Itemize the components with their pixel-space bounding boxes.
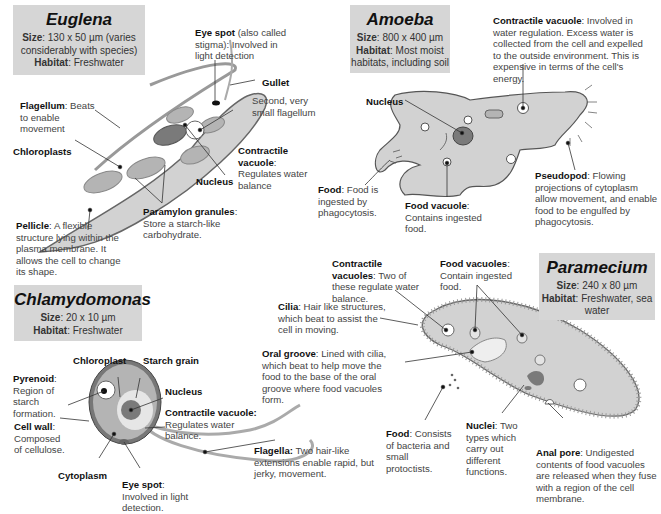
paramecium-habitat: Habitat: Freshwater, sea water — [539, 293, 655, 318]
amoeba-title: Amoeba — [350, 10, 450, 29]
paramecium-oral-groove-label: Oral groove: Lined with cilia, which bea… — [262, 348, 402, 406]
paramecium-food-vacuoles-label: Food vacuoles: Contain ingested food. — [440, 258, 535, 293]
paramecium-anal-pore-label: Anal pore: Undigested contents of food v… — [536, 447, 661, 505]
euglena-nucleus-label: Nucleus — [196, 176, 233, 188]
amoeba-food-vacuole-label: Food vacuole: Contains ingested food. — [405, 200, 485, 235]
amoeba-contractile-vacuole-label: Contractile vacuole: Involved in water r… — [493, 15, 645, 84]
euglena-title: Euglena — [13, 10, 145, 29]
paramecium-size: Size: 240 x 80 µm — [539, 280, 655, 293]
chlamydomonas-nucleus-label: Nucleus — [165, 386, 202, 398]
euglena-flagellum-label: Flagellum: Beats to enable movement — [20, 100, 102, 135]
chlamydomonas-flagella-label: Flagella: Two hair-like extensions enabl… — [254, 445, 374, 480]
chlamydomonas-cytoplasm-label: Cytoplasm — [58, 470, 107, 482]
paramecium-food-label: Food: Consists of bacteria and small pro… — [386, 428, 452, 474]
euglena-size: Size: 130 x 50 µm (varies considerably w… — [13, 32, 145, 57]
euglena-info-box: Euglena Size: 130 x 50 µm (varies consid… — [13, 5, 145, 75]
chlamydomonas-starch-grain-label: Starch grain — [143, 355, 199, 367]
amoeba-size: Size: 800 x 400 µm — [350, 32, 450, 45]
euglena-gullet-label: Gullet — [262, 77, 289, 89]
amoeba-food-label: Food: Food is ingested by phagocytosis. — [318, 184, 394, 219]
euglena-eye-spot-label: Eye spot (also called stigma): Involved … — [195, 27, 290, 62]
chlamydomonas-contractile-vacuole-label: Contractile vacuole: Regulates water bal… — [165, 407, 260, 442]
chlamydomonas-eye-spot-label: Eye spot: Involved in light detection. — [122, 479, 202, 514]
chlamydomonas-title: Chlamydomonas — [14, 290, 142, 309]
paramecium-nuclei-label: Nuclei: Two types which carry out differ… — [466, 420, 536, 478]
chlamydomonas-habitat: Habitat: Freshwater — [14, 325, 142, 338]
euglena-paramylon-label: Paramylon granules: Store a starch-like … — [143, 206, 238, 241]
amoeba-nucleus-label: Nucleus — [366, 96, 403, 108]
amoeba-pseudopod-label: Pseudopod: Flowing projections of cytopl… — [535, 170, 660, 228]
paramecium-cilia-label: Cilia: Hair like structures, which beat … — [278, 301, 390, 336]
euglena-habitat: Habitat: Freshwater — [13, 57, 145, 70]
chlamydomonas-cell-wall-label: Cell wall: Composed of cellulose. — [14, 421, 70, 456]
euglena-chloroplasts-label: Chloroplasts — [13, 146, 72, 158]
euglena-pellicle-label: Pellicle: A flexible structure lying wit… — [16, 220, 128, 278]
paramecium-contractile-vacuoles-label: Contractile vacuoles: Two of these regul… — [332, 258, 422, 304]
paramecium-title: Paramecium — [539, 258, 655, 277]
euglena-second-flagellum-label: Second, very small flagellum — [252, 95, 322, 118]
euglena-contractile-vacuole-label: Contractile vacuole: Regulates water bal… — [238, 145, 318, 191]
chlamydomonas-pyrenoid-label: Pyrenoid: Region of starch formation. — [13, 373, 77, 419]
amoeba-habitat: Habitat: Most moist habitats, including … — [350, 45, 450, 70]
chlamydomonas-size: Size: 20 x 10 µm — [14, 312, 142, 325]
amoeba-info-box: Amoeba Size: 800 x 400 µm Habitat: Most … — [350, 5, 450, 73]
paramecium-info-box: Paramecium Size: 240 x 80 µm Habitat: Fr… — [539, 253, 655, 320]
chlamydomonas-chloroplast-label: Chloroplast — [73, 355, 126, 367]
chlamydomonas-info-box: Chlamydomonas Size: 20 x 10 µm Habitat: … — [14, 285, 142, 341]
